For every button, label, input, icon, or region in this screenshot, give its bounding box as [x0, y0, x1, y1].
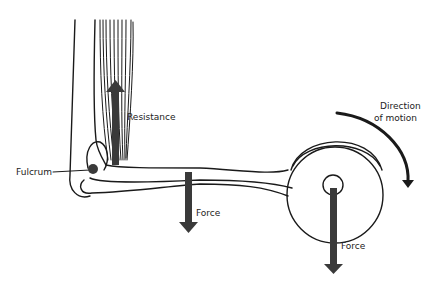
label-force-forearm: Force [196, 208, 220, 219]
label-direction-line1: Direction [380, 101, 421, 112]
label-force-weight: Force [341, 241, 365, 252]
label-resistance: Resistance [127, 112, 176, 123]
fulcrum-dot [88, 164, 98, 174]
label-direction-line2: of motion [374, 113, 417, 124]
force-arrow-weight [324, 188, 343, 274]
direction-arrowhead [402, 180, 414, 188]
fulcrum-pointer [53, 170, 90, 172]
label-fulcrum: Fulcrum [16, 167, 52, 178]
elbow-lever-diagram [0, 0, 439, 283]
forearm-upper [106, 165, 288, 172]
